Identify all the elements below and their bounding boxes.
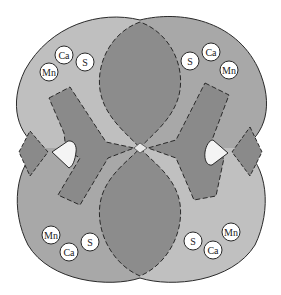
ion-s: S bbox=[76, 53, 94, 71]
svg-text:Ca: Ca bbox=[58, 50, 70, 61]
ion-s: S bbox=[181, 52, 199, 70]
svg-text:Ca: Ca bbox=[205, 47, 217, 58]
ion-s: S bbox=[81, 233, 99, 251]
svg-text:Mn: Mn bbox=[224, 227, 238, 238]
ion-mn: Mn bbox=[40, 63, 58, 81]
svg-text:S: S bbox=[190, 236, 196, 247]
svg-text:Ca: Ca bbox=[207, 245, 219, 256]
svg-text:Ca: Ca bbox=[63, 247, 75, 258]
ion-binding-diagram: Ca Mn S S Ca Mn Mn Ca bbox=[0, 0, 281, 295]
svg-text:Mn: Mn bbox=[222, 65, 236, 76]
svg-text:S: S bbox=[87, 237, 93, 248]
svg-text:S: S bbox=[82, 57, 88, 68]
ion-mn: Mn bbox=[222, 223, 240, 241]
ion-mn: Mn bbox=[42, 226, 60, 244]
ion-ca: Ca bbox=[204, 241, 222, 259]
ion-ca: Ca bbox=[60, 243, 78, 261]
svg-text:Mn: Mn bbox=[44, 230, 58, 241]
ion-mn: Mn bbox=[220, 61, 238, 79]
ion-ca: Ca bbox=[55, 46, 73, 64]
ion-ca: Ca bbox=[202, 43, 220, 61]
svg-text:S: S bbox=[187, 56, 193, 67]
svg-text:Mn: Mn bbox=[42, 67, 56, 78]
ion-s: S bbox=[184, 232, 202, 250]
